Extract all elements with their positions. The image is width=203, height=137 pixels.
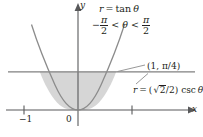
domain-theta: θ — [122, 19, 128, 30]
label-curve-csc-equals: = — [139, 85, 147, 95]
label-curve-tan: r=tanθ — [99, 4, 139, 14]
label-curve-csc: r=(√2/2)cscθ — [133, 85, 203, 95]
label-intersection-point: (1, π/4) — [147, 62, 180, 71]
domain-fraction-right: π2 — [142, 15, 150, 35]
label-curve-csc-radicand: 2 — [159, 85, 166, 95]
label-curve-csc-slash-two: /2 — [166, 85, 175, 95]
label-curve-tan-theta: θ — [133, 3, 139, 14]
x-tick-label-zero: 0 — [66, 115, 72, 124]
domain-lt-left: < — [111, 19, 119, 30]
label-curve-csc-theta: θ — [198, 85, 203, 95]
label-curve-csc-r: r — [133, 85, 137, 95]
polar-region-figure: r=tanθ −π2<θ<π2 (1, π/4) r=(√2/2)cscθ x … — [0, 0, 203, 137]
x-tick-label-neg1: −1 — [19, 115, 32, 124]
domain-lt-right: < — [131, 19, 139, 30]
label-theta-domain: −π2<θ<π2 — [92, 15, 150, 35]
label-curve-tan-r: r — [99, 3, 104, 14]
domain-right-denominator: 2 — [142, 26, 150, 36]
domain-minus-sign: − — [92, 19, 100, 30]
label-curve-csc-close-paren: ) — [175, 85, 179, 95]
domain-left-denominator: 2 — [100, 26, 108, 36]
leader-line-point — [118, 65, 146, 72]
leader-line-csc — [136, 74, 148, 85]
sqrt-icon: √2 — [152, 85, 165, 95]
label-curve-csc-func: csc — [181, 85, 196, 95]
x-axis-label: x — [192, 105, 197, 114]
domain-fraction-left: π2 — [100, 15, 108, 35]
label-curve-tan-func: tan — [116, 3, 132, 14]
label-curve-tan-equals: = — [106, 3, 114, 14]
y-axis-label: y — [80, 1, 85, 10]
